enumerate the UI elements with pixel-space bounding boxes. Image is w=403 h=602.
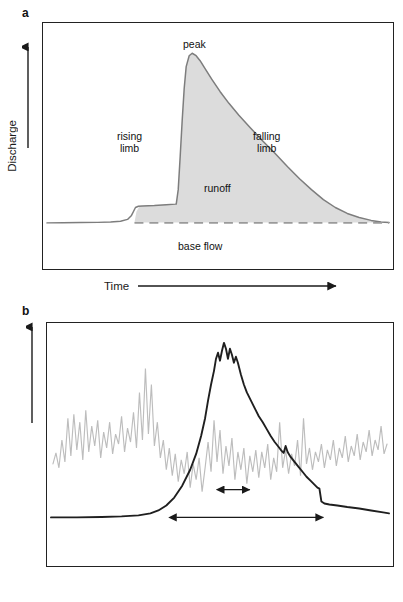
panel-b-hydrograph-svg bbox=[47, 323, 393, 566]
panel-b-plot-area bbox=[46, 322, 394, 567]
panel-a-x-axis-label-row: Time bbox=[104, 280, 348, 292]
annotation-base-flow: base flow bbox=[178, 240, 222, 252]
panel-a-y-axis-arrow bbox=[22, 38, 34, 148]
annotation-rising-limb-line1: rising bbox=[117, 130, 142, 142]
annotation-falling-limb-line1: falling bbox=[253, 130, 280, 142]
annotation-rising-limb-line2: limb bbox=[117, 142, 142, 154]
annotation-falling-limb-line2: limb bbox=[253, 142, 280, 154]
annotation-peak: peak bbox=[183, 38, 206, 50]
panel-b: b Average daily discharge bbox=[0, 300, 403, 602]
annotation-falling-limb: falling limb bbox=[253, 130, 280, 155]
panel-a-letter: a bbox=[22, 6, 29, 20]
annotation-runoff: runoff bbox=[204, 182, 231, 194]
annotation-rising-limb: rising limb bbox=[117, 130, 142, 155]
panel-a-x-axis-label: Time bbox=[104, 280, 129, 292]
panel-a-hydrograph-svg bbox=[43, 23, 393, 269]
rainfall-trace bbox=[53, 369, 387, 492]
panel-b-y-axis-arrow bbox=[26, 318, 38, 423]
panel-a-x-axis-arrow bbox=[136, 280, 348, 292]
panel-b-letter: b bbox=[22, 304, 29, 318]
hydrograph-figure: a Discharge peak rising bbox=[0, 0, 403, 602]
panel-a-y-axis-label: Discharge bbox=[6, 120, 18, 172]
panel-a-plot-area bbox=[42, 22, 394, 270]
panel-a: a Discharge peak rising bbox=[0, 0, 403, 300]
